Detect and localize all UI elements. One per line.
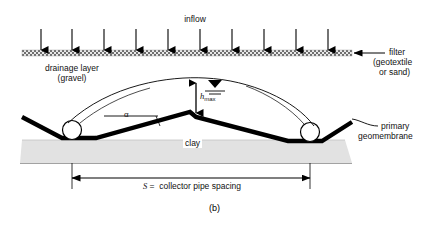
h-max-label: hmax	[200, 91, 216, 102]
filter-label-line2: (geotextile	[373, 57, 412, 67]
filter-layer-band	[22, 50, 352, 56]
drainage-layer-label-line1: drainage layer	[12, 63, 132, 73]
alpha-label: α	[124, 110, 129, 120]
drainage-layer-label-line2: (gravel)	[12, 73, 132, 83]
diagram-svg	[0, 0, 429, 225]
h-max-subscript: max	[204, 96, 215, 102]
geomembrane-label-line1: primary	[381, 121, 409, 131]
pipe-leader-right	[246, 86, 304, 124]
collector-pipe-right	[301, 123, 320, 142]
inflow-label: inflow	[160, 14, 230, 24]
filter-label-line3: or sand)	[379, 67, 410, 77]
clay-label: clay	[183, 138, 202, 148]
filter-label-line1: filter	[389, 47, 405, 57]
phreatic-surface-arc	[68, 78, 314, 126]
figure-caption: (b)	[0, 203, 429, 213]
spacing-label: S = collector pipe spacing	[92, 181, 292, 191]
spacing-text: = collector pipe spacing	[147, 181, 241, 191]
inflow-arrows	[41, 29, 328, 50]
geomembrane-label-line2: geomembrane	[358, 131, 413, 141]
figure-canvas: inflow filter (geotextile or sand) drain…	[0, 0, 429, 225]
geomembrane-leader-line	[352, 119, 378, 126]
collector-pipe-left	[63, 121, 82, 140]
